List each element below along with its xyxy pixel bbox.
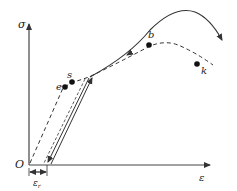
unload-dashed-line (44, 79, 85, 163)
original-dashed-curve (30, 43, 213, 163)
residual-strain-label: εr (33, 178, 42, 189)
x-axis-label: ε (199, 172, 204, 183)
origin-label: O (15, 158, 24, 171)
point-e (62, 84, 68, 90)
point-s (69, 79, 75, 85)
point-label-k: k (201, 65, 207, 76)
stress-strain-diagram: σ ε O e s b k εr (0, 0, 237, 191)
unload-line (48, 78, 89, 162)
point-label-s: s (67, 69, 72, 80)
point-label-e: e (56, 81, 62, 92)
point-b (146, 42, 152, 48)
y-axis-label: σ (18, 18, 26, 31)
point-label-b: b (148, 29, 154, 40)
point-k (194, 61, 200, 67)
